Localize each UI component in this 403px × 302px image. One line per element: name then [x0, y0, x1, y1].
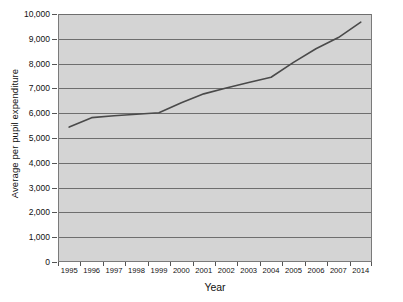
- x-axis-title: Year: [58, 281, 372, 293]
- x-axis-tick-label: 2005: [285, 266, 302, 275]
- x-axis-tick: [237, 262, 238, 266]
- x-axis-tick-label: 1996: [83, 266, 100, 275]
- x-axis-tick-label: 1999: [150, 266, 167, 275]
- x-axis-tick-label: 2000: [173, 266, 190, 275]
- x-axis-tick: [103, 262, 104, 266]
- x-axis-tick: [371, 262, 372, 266]
- x-axis-tick: [305, 262, 306, 266]
- x-axis-tick-label: 2001: [195, 266, 212, 275]
- x-axis-tick-label: 2003: [240, 266, 257, 275]
- chart-container: Average per pupil expenditure 01,0002,00…: [0, 0, 403, 302]
- x-axis-tick-label: 1995: [61, 266, 78, 275]
- x-axis-tick: [125, 262, 126, 266]
- x-axis-tick-label: 2004: [263, 266, 280, 275]
- x-axis-labels: 1995199619971998199920002001200220032004…: [0, 0, 403, 302]
- x-axis-tick: [260, 262, 261, 266]
- x-axis-tick-label: 2007: [330, 266, 347, 275]
- x-axis-tick: [350, 262, 351, 266]
- x-axis-tick-label: 2002: [218, 266, 235, 275]
- x-axis-tick: [215, 262, 216, 266]
- x-axis-tick-label: 1997: [106, 266, 123, 275]
- x-axis-tick-label: 2006: [307, 266, 324, 275]
- x-axis-tick: [80, 262, 81, 266]
- x-axis-tick: [148, 262, 149, 266]
- x-axis-tick-label: 1998: [128, 266, 145, 275]
- x-axis-tick: [327, 262, 328, 266]
- x-axis-tick: [193, 262, 194, 266]
- x-axis-tick-label: 2014: [352, 266, 369, 275]
- x-axis-tick: [170, 262, 171, 266]
- x-axis-tick: [282, 262, 283, 266]
- x-axis-tick: [58, 262, 59, 266]
